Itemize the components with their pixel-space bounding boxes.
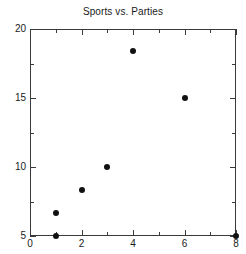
- data-point: [53, 233, 59, 239]
- x-tick-minor-mirror: [210, 29, 211, 33]
- scatter-plot-figure: Sports vs. Parties 510152002468: [0, 0, 246, 254]
- x-axis-label-4: 4: [130, 239, 136, 249]
- y-tick-minor-mirror: [232, 202, 236, 203]
- y-tick-minor: [30, 133, 34, 134]
- x-tick-major: [185, 230, 186, 236]
- y-tick-major-mirror: [230, 98, 236, 99]
- x-tick-major-mirror: [30, 29, 31, 35]
- x-axis-label-6: 6: [182, 239, 188, 249]
- x-tick-minor: [210, 232, 211, 236]
- y-tick-minor-mirror: [232, 133, 236, 134]
- x-tick-major-mirror: [82, 29, 83, 35]
- x-tick-minor-mirror: [56, 29, 57, 33]
- x-tick-minor: [159, 232, 160, 236]
- x-tick-major-mirror: [236, 29, 237, 35]
- x-tick-major: [82, 230, 83, 236]
- x-axis-label-8: 8: [233, 239, 239, 249]
- x-tick-minor-mirror: [159, 29, 160, 33]
- y-tick-major: [30, 236, 36, 237]
- plot-frame: [30, 29, 236, 236]
- y-axis-label-15: 15: [15, 93, 26, 103]
- chart-title: Sports vs. Parties: [0, 6, 246, 18]
- x-tick-major-mirror: [133, 29, 134, 35]
- x-tick-minor-mirror: [107, 29, 108, 33]
- data-point: [233, 233, 239, 239]
- data-point: [53, 210, 59, 216]
- x-axis-label-2: 2: [79, 239, 85, 249]
- x-tick-major-mirror: [185, 29, 186, 35]
- plot-area: 510152002468: [30, 29, 236, 236]
- x-tick-major: [30, 230, 31, 236]
- data-point: [182, 95, 188, 101]
- y-tick-minor: [30, 202, 34, 203]
- x-tick-major: [133, 230, 134, 236]
- y-tick-major: [30, 167, 36, 168]
- y-tick-major: [30, 98, 36, 99]
- y-tick-major-mirror: [230, 167, 236, 168]
- x-tick-minor: [107, 232, 108, 236]
- y-axis-label-5: 5: [20, 231, 26, 241]
- y-axis-label-20: 20: [15, 24, 26, 34]
- y-tick-minor-mirror: [232, 64, 236, 65]
- x-axis-label-0: 0: [27, 239, 33, 249]
- y-tick-minor: [30, 64, 34, 65]
- y-axis-label-10: 10: [15, 162, 26, 172]
